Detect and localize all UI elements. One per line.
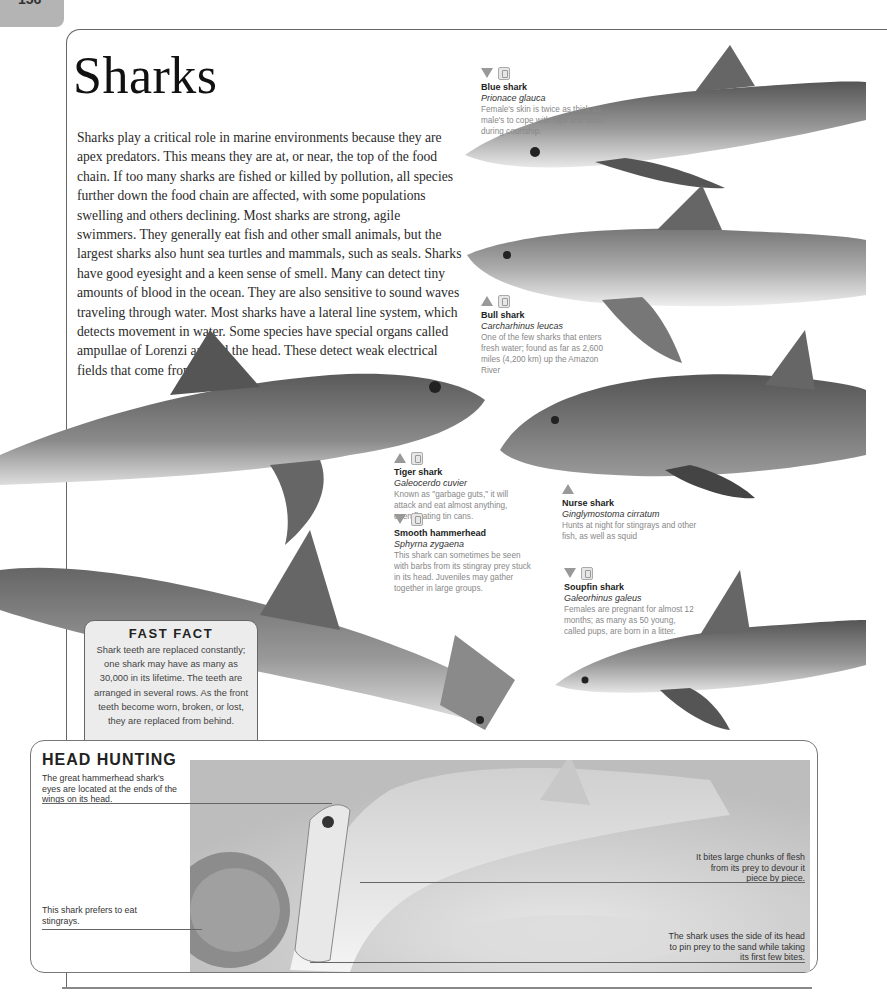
page-number-tab: 156 [0, 0, 64, 27]
page-bottom-rule [62, 987, 812, 989]
reference-book-icon [411, 452, 423, 465]
head-hunting-title: HEAD HUNTING [42, 751, 177, 769]
reference-book-icon [498, 67, 510, 80]
species-description: Females are pregnant for almost 12 month… [564, 604, 699, 637]
species-description: This shark can sometimes be seen with ba… [394, 550, 534, 594]
species-label-bull-shark: Bull shark Carcharhinus leucas One of th… [481, 294, 616, 376]
species-scientific-name: Galeocerdo cuvier [394, 478, 524, 489]
species-description: Hunts at night for stingrays and other f… [562, 520, 702, 542]
depth-triangle-down-icon [394, 514, 406, 524]
species-label-smooth-hammerhead: Smooth hammerhead Sphyrna zygaena This s… [394, 512, 534, 594]
species-scientific-name: Galeorhinus galeus [564, 593, 699, 604]
species-scientific-name: Ginglymostoma cirratum [562, 509, 702, 520]
callout-bites-leader [360, 882, 805, 883]
callout-bites: It bites large chunks of flesh from its … [690, 852, 805, 884]
species-scientific-name: Carcharhinus leucas [481, 321, 616, 332]
species-name: Tiger shark [394, 467, 524, 478]
fast-fact-title: FAST FACT [85, 626, 257, 641]
page-number: 156 [18, 0, 41, 7]
reference-book-icon [498, 295, 510, 308]
species-name: Blue shark [481, 82, 621, 93]
fast-fact-text: Shark teeth are replaced constantly; one… [89, 643, 253, 728]
species-description: One of the few sharks that enters fresh … [481, 332, 616, 376]
species-scientific-name: Sphyrna zygaena [394, 539, 534, 550]
callout-pin-prey: The shark uses the side of its head to p… [660, 931, 805, 963]
species-name: Nurse shark [562, 498, 702, 509]
page-title: Sharks [73, 46, 218, 105]
depth-triangle-down-icon [564, 568, 576, 578]
species-scientific-name: Prionace glauca [481, 93, 621, 104]
species-name: Smooth hammerhead [394, 528, 534, 539]
callout-pin-prey-leader [310, 962, 805, 963]
reference-book-icon [411, 513, 423, 526]
depth-triangle-up-icon [394, 453, 406, 463]
species-name: Bull shark [481, 310, 616, 321]
species-description: Female's skin is twice as thick as male'… [481, 104, 621, 137]
species-name: Soupfin shark [564, 582, 699, 593]
callout-eyes-leader [42, 803, 332, 804]
depth-triangle-up-icon [562, 484, 574, 494]
depth-triangle-up-icon [481, 296, 493, 306]
species-label-soupfin-shark: Soupfin shark Galeorhinus galeus Females… [564, 566, 699, 637]
species-label-nurse-shark: Nurse shark Ginglymostoma cirratum Hunts… [562, 482, 702, 542]
species-label-blue-shark: Blue shark Prionace glauca Female's skin… [481, 66, 621, 137]
reference-book-icon [581, 567, 593, 580]
fast-fact-box: FAST FACT Shark teeth are replaced const… [84, 620, 258, 752]
callout-stingrays: This shark prefers to eat stingrays. [42, 905, 137, 926]
depth-triangle-down-icon [481, 68, 493, 78]
callout-stingrays-leader [42, 929, 202, 930]
callout-eyes: The great hammerhead shark's eyes are lo… [42, 773, 177, 805]
